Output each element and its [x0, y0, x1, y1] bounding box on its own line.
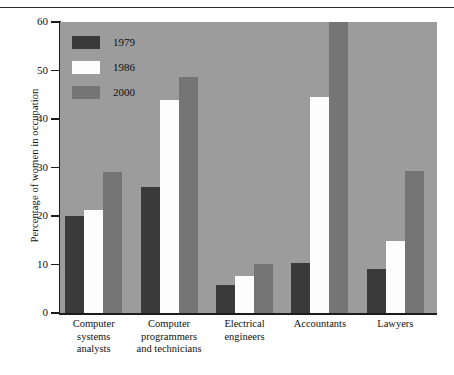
bar-2000	[179, 77, 198, 313]
bar-1979	[367, 269, 386, 313]
bar-group	[291, 22, 348, 313]
bar-2000	[405, 171, 424, 313]
y-axis-tick-label: 50	[8, 65, 48, 76]
bar-1986	[310, 97, 329, 313]
legend-swatch-1979	[72, 36, 100, 49]
bar-1979	[291, 263, 310, 313]
bar-1986	[84, 210, 103, 313]
y-axis-tick-mark	[51, 118, 60, 120]
y-axis-tick-mark	[51, 21, 60, 23]
y-axis-tick-label: 20	[8, 210, 48, 221]
bar-1979	[65, 216, 84, 313]
y-axis-tick-label: 10	[8, 259, 48, 270]
y-axis-tick-mark	[51, 167, 60, 169]
legend-label-2000: 2000	[113, 86, 135, 98]
y-axis-tick-label: 30	[8, 162, 48, 173]
chart-legend: 197919862000	[72, 31, 192, 106]
bar-1986	[235, 276, 254, 313]
legend-item-1979: 1979	[72, 31, 192, 53]
bar-group	[216, 22, 273, 313]
x-axis-label-line: and technicians	[124, 343, 214, 356]
y-axis-tick-mark	[51, 264, 60, 266]
bar-1979	[216, 285, 235, 313]
x-axis-label-line: Lawyers	[350, 318, 440, 331]
y-axis-tick-mark	[51, 215, 60, 217]
legend-item-2000: 2000	[72, 81, 192, 103]
legend-label-1979: 1979	[113, 36, 135, 48]
x-axis-label-4: Lawyers	[350, 318, 440, 331]
y-axis-tick-label: 0	[8, 307, 48, 318]
bar-group	[367, 22, 424, 313]
x-axis-label-line: engineers	[200, 331, 290, 344]
bar-1979	[141, 187, 160, 313]
y-axis-tick-mark	[51, 312, 60, 314]
y-axis-tick-mark	[51, 70, 60, 72]
bar-2000	[329, 22, 348, 313]
legend-swatch-2000	[72, 86, 100, 99]
legend-label-1986: 1986	[113, 61, 135, 73]
x-axis-line	[59, 313, 437, 315]
bar-1986	[160, 100, 179, 313]
y-axis-tick-label: 60	[8, 16, 48, 27]
bar-2000	[254, 264, 273, 313]
legend-item-1986: 1986	[72, 56, 192, 78]
bar-2000	[103, 172, 122, 313]
y-axis-tick-label: 40	[8, 113, 48, 124]
plot-area: 197919862000	[60, 22, 437, 313]
top-divider-rule	[0, 7, 454, 8]
figure: Percentage of women in occupation 010203…	[0, 0, 454, 375]
legend-swatch-1986	[72, 61, 100, 74]
bar-1986	[386, 241, 405, 313]
